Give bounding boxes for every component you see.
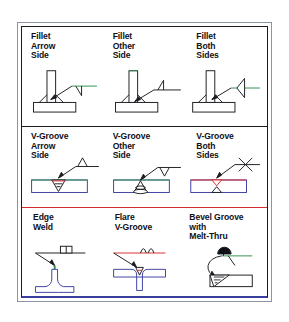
chart-inner-frame: Fillet Arrow Side (21, 26, 268, 298)
cell-label: Edge Weld (22, 213, 104, 232)
cell-label: Flare V-Groove (104, 213, 186, 232)
cell-label: Fillet Arrow Side (22, 32, 104, 61)
cell-label: V-Groove Arrow Side (22, 132, 104, 161)
cell-label: Fillet Both Sides (185, 32, 267, 61)
cell-fillet-both-sides: Fillet Both Sides (185, 27, 267, 126)
welding-symbol-chart: Fillet Arrow Side (17, 22, 272, 302)
row-v-groove-welds: V-Groove Arrow Side (22, 127, 267, 208)
cell-edge-weld: Edge Weld (22, 208, 104, 298)
cell-fillet-arrow-side: Fillet Arrow Side (22, 27, 104, 126)
cell-flare-v-groove: Flare V-Groove (104, 208, 186, 298)
cell-label: Fillet Other Side (104, 32, 186, 61)
cell-label: V-Groove Both Sides (185, 132, 267, 161)
cell-label: V-Groove Other Side (104, 132, 186, 161)
cell-fillet-other-side: Fillet Other Side (104, 27, 186, 126)
row-fillet-welds: Fillet Arrow Side (22, 27, 267, 127)
cell-label: Bevel Groove with Melt-Thru (185, 213, 267, 242)
cell-vgroove-arrow-side: V-Groove Arrow Side (22, 127, 104, 207)
row-special-welds: Edge Weld (22, 208, 267, 298)
cell-bevel-groove-melt-thru: Bevel Groove with Melt-Thru (185, 208, 267, 298)
cell-vgroove-other-side: V-Groove Other Side (104, 127, 186, 207)
cell-vgroove-both-sides: V-Groove Both Sides (185, 127, 267, 207)
